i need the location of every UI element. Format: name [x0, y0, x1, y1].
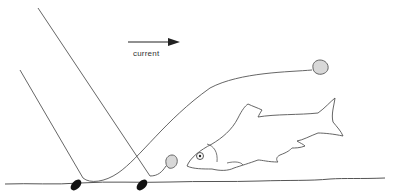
fishing-line-right: [38, 8, 150, 176]
arrow-head-icon: [168, 38, 180, 46]
current-label: current: [133, 49, 159, 58]
diagram-canvas: [0, 0, 395, 196]
snood-short: [150, 166, 166, 176]
fish-body: [187, 98, 343, 170]
bait-floating: [313, 60, 328, 74]
seabed-line: [5, 178, 385, 184]
bait-bottom: [166, 155, 177, 168]
current-arrow: [128, 38, 180, 46]
sinker-left: [69, 178, 84, 193]
fishing-line-left: [20, 70, 83, 178]
sinker-right: [135, 178, 150, 193]
fish: [187, 98, 343, 170]
fishing-rig-diagram: current: [0, 0, 395, 196]
